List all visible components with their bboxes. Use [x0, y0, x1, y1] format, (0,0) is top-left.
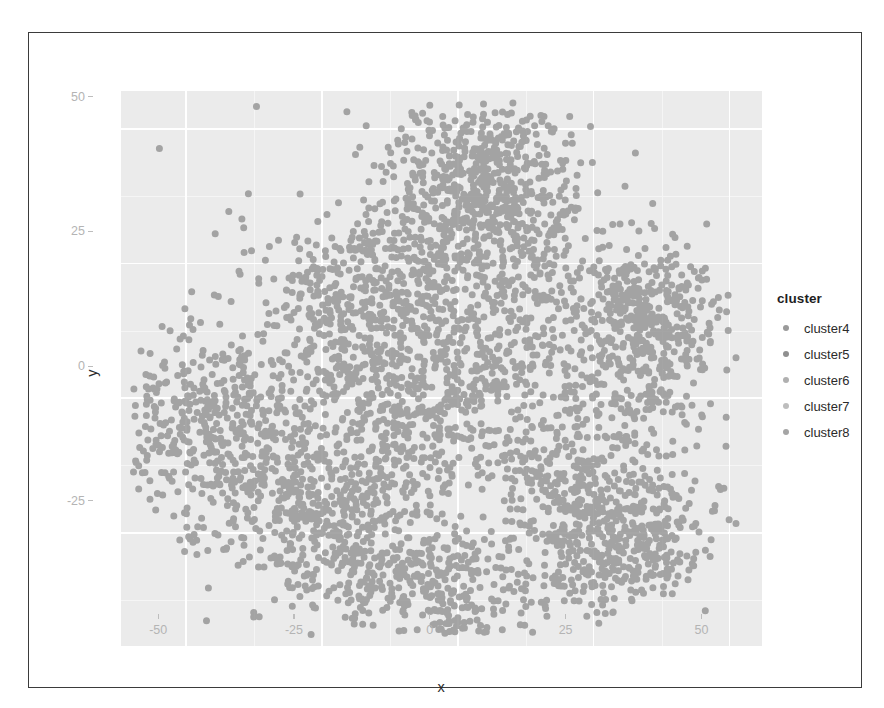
legend-items: cluster4cluster5cluster6cluster7cluster8	[777, 315, 884, 445]
legend-dot-icon	[783, 403, 789, 409]
legend-dot-icon	[783, 351, 789, 357]
legend-key-swatch	[777, 371, 795, 389]
legend-item-cluster4[interactable]: cluster4	[777, 315, 884, 341]
legend-dot-icon	[783, 377, 789, 383]
legend-item-label: cluster7	[804, 399, 850, 414]
legend-dot-icon	[783, 325, 789, 331]
y-tick-label: 50	[60, 90, 85, 104]
y-tick-mark	[88, 500, 93, 501]
legend-key-swatch	[777, 397, 795, 415]
x-tick-label: -50	[149, 623, 167, 637]
y-tick-mark	[88, 366, 93, 367]
legend-key-swatch	[777, 423, 795, 441]
y-tick-label: -25	[60, 494, 85, 508]
y-tick-mark	[88, 231, 93, 232]
legend-item-cluster5[interactable]: cluster5	[777, 341, 884, 367]
x-tick-label: 50	[694, 623, 708, 637]
x-tick-label: 25	[559, 623, 573, 637]
legend-dot-icon	[783, 429, 789, 435]
legend-item-cluster6[interactable]: cluster6	[777, 367, 884, 393]
legend-item-label: cluster5	[804, 347, 850, 362]
legend-item-cluster7[interactable]: cluster7	[777, 393, 884, 419]
x-tick-label: -25	[285, 623, 303, 637]
x-tick-mark	[429, 614, 430, 619]
legend-item-label: cluster4	[804, 321, 850, 336]
y-axis-title: y	[84, 369, 100, 376]
scatter-points-layer	[121, 91, 762, 646]
x-axis-title: x	[437, 679, 444, 695]
scatter-points	[121, 91, 762, 646]
legend-title: cluster	[777, 291, 884, 306]
figure-root: x y cluster cluster4cluster5cluster6clus…	[0, 0, 884, 708]
x-tick-mark	[293, 614, 294, 619]
legend-item-label: cluster6	[804, 373, 850, 388]
x-tick-mark	[701, 614, 702, 619]
plot-panel	[121, 91, 762, 646]
legend-key-swatch	[777, 345, 795, 363]
legend-item-cluster8[interactable]: cluster8	[777, 419, 884, 445]
y-tick-label: 0	[60, 359, 85, 373]
point-series-cluster	[130, 100, 740, 638]
y-tick-label: 25	[60, 224, 85, 238]
x-tick-mark	[158, 614, 159, 619]
x-tick-label: 0	[426, 623, 433, 637]
legend: cluster cluster4cluster5cluster6cluster7…	[777, 291, 884, 445]
point-marker-group	[130, 100, 740, 638]
figure-frame: x y cluster cluster4cluster5cluster6clus…	[28, 32, 862, 688]
y-tick-mark	[88, 96, 93, 97]
legend-item-label: cluster8	[804, 425, 850, 440]
legend-key-swatch	[777, 319, 795, 337]
x-tick-mark	[565, 614, 566, 619]
